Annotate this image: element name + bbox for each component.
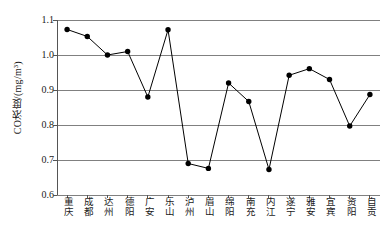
x-axis-tick-label-text: 自贡 <box>365 197 375 217</box>
data-point <box>347 123 352 128</box>
x-axis-tick-label: 成都 <box>80 197 94 220</box>
y-axis-tick-label: 0.9 <box>26 85 54 95</box>
data-point <box>165 27 170 32</box>
data-point <box>186 161 191 166</box>
x-axis-tick-label-text: 内江 <box>264 197 274 217</box>
x-axis-tick-label-text: 雅安 <box>305 197 315 217</box>
x-axis-tick-label-text: 泸州 <box>183 197 193 217</box>
x-axis-tick-label: 遂宁 <box>282 197 296 220</box>
x-axis-tick-label-text: 重庆 <box>62 197 72 217</box>
x-axis-tick-label: 宜宾 <box>323 197 337 220</box>
data-point <box>367 92 372 97</box>
x-axis-tick-label-text: 乐山 <box>163 197 173 217</box>
x-axis-tick-label-text: 资阳 <box>345 197 355 217</box>
data-point <box>327 77 332 82</box>
x-axis-tick-label: 乐山 <box>161 197 175 220</box>
x-axis-tick-label: 绵阳 <box>222 197 236 220</box>
x-axis-tick-label: 南充 <box>242 197 256 220</box>
plot-area <box>57 20 380 195</box>
data-point <box>226 80 231 85</box>
data-point <box>105 52 110 57</box>
y-axis-tick-label: 1.0 <box>26 50 54 60</box>
y-axis-title: CO浓度/(mg/m³) <box>8 0 28 196</box>
data-point <box>266 167 271 172</box>
x-axis-tick-label-text: 成都 <box>82 197 92 217</box>
y-axis-title-text: CO浓度/(mg/m³) <box>13 61 23 134</box>
data-point <box>246 99 251 104</box>
data-point <box>286 73 291 78</box>
x-axis-tick-label: 重庆 <box>60 197 74 220</box>
x-axis-tick-label: 雅安 <box>302 197 316 220</box>
x-axis-tick-label: 德阳 <box>121 197 135 220</box>
x-axis-tick-label-text: 广安 <box>143 197 153 217</box>
line-chart-svg <box>57 20 380 195</box>
y-axis-tick-label: 0.6 <box>26 190 54 200</box>
chart-figure: CO浓度/(mg/m³) 1.11.00.90.80.70.6 重庆成都达州德阳… <box>0 0 391 242</box>
x-axis-tick-label-text: 德阳 <box>123 197 133 217</box>
x-axis-tick-label-text: 南充 <box>244 197 254 217</box>
data-point <box>125 49 130 54</box>
x-axis-tick-label-text: 遂宁 <box>284 197 294 217</box>
data-point <box>85 34 90 39</box>
y-axis-tick-label: 0.7 <box>26 155 54 165</box>
y-axis-tick-label: 0.8 <box>26 120 54 130</box>
x-axis-tick-label: 泸州 <box>181 197 195 220</box>
x-axis-tick-label-text: 宜宾 <box>325 197 335 217</box>
gridlines <box>57 20 380 195</box>
y-axis-tick-labels: 1.11.00.90.80.70.6 <box>26 0 54 242</box>
data-point <box>307 66 312 71</box>
y-axis-tick-label: 1.1 <box>26 15 54 25</box>
x-axis-tick-label: 资阳 <box>343 197 357 220</box>
x-axis-tick-label-text: 达州 <box>103 197 113 217</box>
data-line-series <box>67 29 370 169</box>
x-axis-tick-label: 眉山 <box>201 197 215 220</box>
x-axis-tick-label: 内江 <box>262 197 276 220</box>
x-axis-tick-label-text: 绵阳 <box>224 197 234 217</box>
x-axis-tick-label-text: 眉山 <box>204 197 214 217</box>
x-axis-tick-label: 自贡 <box>363 197 377 220</box>
data-point-markers <box>64 27 372 172</box>
x-axis-tick-label: 达州 <box>100 197 114 220</box>
data-point <box>64 27 69 32</box>
x-axis-tick-labels: 重庆成都达州德阳广安乐山泸州眉山绵阳南充内江遂宁雅安宜宾资阳自贡 <box>57 197 380 242</box>
x-axis-tick-label: 广安 <box>141 197 155 220</box>
data-point <box>145 94 150 99</box>
data-point <box>206 166 211 171</box>
